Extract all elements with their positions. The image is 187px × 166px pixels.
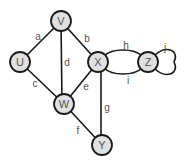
edge-label-e: e <box>83 81 89 92</box>
edges <box>20 21 175 145</box>
node-label-v: V <box>57 15 65 27</box>
edge-label-j: j <box>163 42 166 53</box>
node-w: W <box>54 94 74 114</box>
node-u: U <box>10 52 30 72</box>
node-label-u: U <box>16 56 24 68</box>
edge-label-f: f <box>77 125 80 136</box>
node-z: Z <box>138 52 158 72</box>
edge-label-d: d <box>64 57 70 68</box>
node-label-w: W <box>59 98 70 110</box>
edge-label-a: a <box>35 31 41 42</box>
node-y: Y <box>92 135 112 155</box>
node-label-z: Z <box>145 56 152 68</box>
node-label-y: Y <box>98 139 106 151</box>
edge-h <box>104 50 142 56</box>
edge-labels: a b c d e f g h i j <box>33 31 167 136</box>
edge-label-b: b <box>84 33 90 44</box>
graph-diagram: a b c d e f g h i j U V X Z W Y <box>0 0 187 166</box>
node-x: X <box>88 52 108 72</box>
edge-label-g: g <box>104 102 110 113</box>
edge-label-h: h <box>123 40 129 51</box>
node-label-x: X <box>94 56 102 68</box>
edge-d <box>61 21 62 104</box>
edge-label-i: i <box>127 75 129 86</box>
edge-label-c: c <box>33 78 38 89</box>
edge-i <box>104 68 142 74</box>
node-v: V <box>51 11 71 31</box>
